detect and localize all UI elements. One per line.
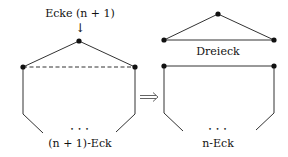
- right-ellipsis: • • •: [208, 126, 227, 132]
- down-arrow-icon: ↓: [75, 22, 85, 34]
- diagram-canvas: Ecke (n + 1) ↓ • • • (n + 1)-Eck Dreieck…: [0, 0, 288, 157]
- left-ellipsis: • • •: [70, 126, 89, 132]
- right-polygon: [164, 66, 274, 131]
- right-polygon-label: n-Eck: [202, 138, 234, 149]
- polygon-decomposition-figure: [0, 0, 288, 157]
- left-polygon: [23, 41, 135, 133]
- vertex-label: Ecke (n + 1): [45, 8, 115, 19]
- left-polygon-label: (n + 1)-Eck: [48, 138, 111, 149]
- triangle-label: Dreieck: [196, 46, 239, 57]
- triangle: [164, 14, 274, 40]
- implies-arrow-icon: [140, 93, 158, 102]
